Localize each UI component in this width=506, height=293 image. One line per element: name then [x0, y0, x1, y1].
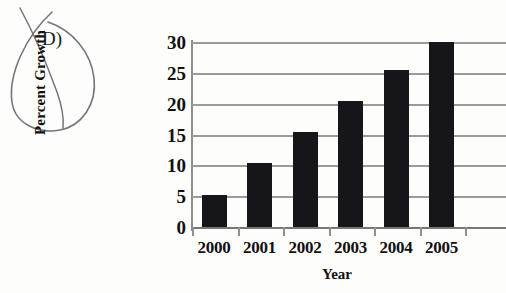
bar-2005	[429, 42, 454, 227]
y-axis-tick-labels: 051015202530	[138, 28, 186, 234]
y-tick-label: 30	[138, 33, 186, 52]
x-tick	[283, 227, 285, 236]
x-tick	[192, 227, 194, 236]
bar-2000	[202, 195, 227, 227]
y-tick-label: 25	[138, 63, 186, 82]
x-tick-label: 2003	[328, 238, 374, 258]
bar-2004	[384, 70, 409, 227]
x-tick-label: 2000	[191, 238, 237, 258]
x-axis-title: Year	[192, 266, 482, 283]
y-tick-label: 15	[138, 125, 186, 144]
x-tick	[238, 227, 240, 236]
y-tick-label: 20	[138, 94, 186, 113]
x-tick	[420, 227, 422, 236]
y-tick-label: 10	[138, 156, 186, 175]
bar-series	[192, 42, 506, 227]
y-axis-title: Percent Growth	[32, 3, 49, 163]
bar-2002	[293, 132, 318, 227]
x-tick	[374, 227, 376, 236]
x-tick-label: 2005	[419, 238, 465, 258]
y-tick-label: 0	[138, 218, 186, 237]
bar-chart: Percent Growth 051015202530 200020012002…	[0, 0, 506, 293]
x-tick	[329, 227, 331, 236]
x-axis-ticks	[192, 227, 506, 236]
x-axis-tick-labels: 200020012002200320042005	[192, 238, 506, 260]
x-tick-label: 2002	[282, 238, 328, 258]
x-tick	[465, 227, 467, 236]
bar-2001	[247, 163, 272, 227]
x-tick-label: 2004	[373, 238, 419, 258]
x-tick-label: 2001	[237, 238, 283, 258]
bar-2003	[338, 101, 363, 227]
y-tick-label: 5	[138, 187, 186, 206]
